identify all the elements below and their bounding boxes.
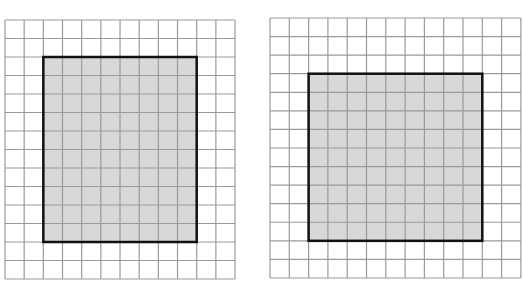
left-grid-figure: Shaded rectangle 8 by 10 units on a 12 b… [4, 19, 237, 281]
right-grid-caption: Shaded square 9 by 9 units on a 13 by 14… [269, 280, 270, 281]
left-grid-svg [4, 19, 237, 281]
left-grid-caption: Shaded rectangle 8 by 10 units on a 12 b… [4, 281, 5, 282]
right-grid-svg [269, 17, 523, 280]
shaded-region [309, 74, 483, 241]
grid-lines [5, 20, 235, 279]
right-grid-figure: Shaded square 9 by 9 units on a 13 by 14… [269, 17, 523, 280]
